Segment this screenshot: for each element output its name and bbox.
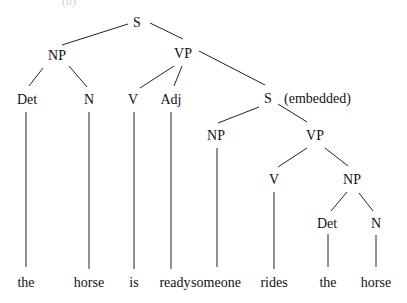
tree-edge <box>331 192 347 211</box>
tree-node-vp1: VP <box>174 46 192 61</box>
tree-node-det2: Det <box>317 216 337 231</box>
syntax-tree: SNPVPDetNVAdjS(embedded)NPVPVNPDetN theh… <box>0 0 407 303</box>
terminal-word: the <box>319 275 336 290</box>
tree-edge <box>62 24 128 45</box>
tree-edge <box>140 66 174 88</box>
tree-node-s: S <box>133 15 141 30</box>
terminal-word: rides <box>260 275 287 290</box>
tree-edges <box>26 23 376 269</box>
terminal-word: horse <box>74 275 104 290</box>
tree-edge <box>278 148 307 167</box>
tree-node-np2: NP <box>207 128 225 143</box>
tree-edge <box>359 193 373 211</box>
terminal-word: ready <box>159 275 190 290</box>
tree-node-adj1: Adj <box>161 92 182 107</box>
tree-node-n1: N <box>84 92 94 107</box>
tree-edge <box>174 66 182 86</box>
tree-edge <box>150 23 183 39</box>
tree-edge <box>218 107 259 123</box>
tree-node-np3: NP <box>343 172 361 187</box>
terminal-words: thehorseisreadysomeoneridesthehorse <box>17 275 391 290</box>
tree-edge <box>325 148 348 166</box>
tree-edge <box>278 104 307 122</box>
terminal-word: someone <box>191 275 241 290</box>
tree-edge <box>199 51 265 85</box>
tree-node-n2: N <box>371 216 381 231</box>
terminal-word: horse <box>361 275 391 290</box>
tree-edge <box>29 68 43 86</box>
node-annotation: (embedded) <box>284 91 351 107</box>
tree-node-s2: S <box>264 91 272 106</box>
tree-node-np1: NP <box>48 48 66 63</box>
tree-node-det1: Det <box>17 92 37 107</box>
tree-edge <box>69 66 87 87</box>
tree-node-v1: V <box>128 92 138 107</box>
tree-node-vp2: VP <box>306 128 324 143</box>
terminal-word: is <box>129 275 138 290</box>
tree-node-v2: V <box>269 172 279 187</box>
terminal-word: the <box>17 275 34 290</box>
tree-nodes: SNPVPDetNVAdjS(embedded)NPVPVNPDetN <box>17 15 381 231</box>
